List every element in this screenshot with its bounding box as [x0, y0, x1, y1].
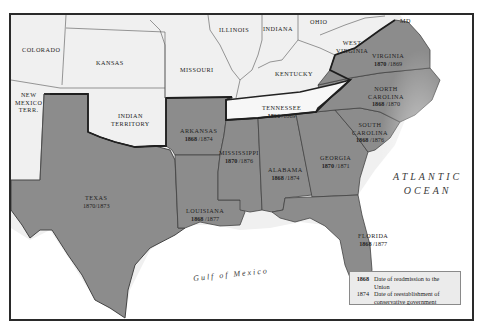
- label-georgia: GEORGIA 1870 /1871: [320, 154, 351, 169]
- label-tennessee: TENNESSEE 1866 /1869: [262, 104, 301, 119]
- legend-text-readmission: Date of readmission to the Union: [374, 275, 455, 290]
- label-south-carolina: SOUTH CAROLINA 1868 /1876: [352, 121, 388, 144]
- label-virginia: VIRGINIA 1870 /1869: [372, 52, 404, 67]
- legend-key-readmission: 1868: [355, 275, 369, 290]
- label-ohio: OHIO: [310, 18, 327, 26]
- label-arkansas: ARKANSAS 1868 /1874: [180, 127, 217, 142]
- label-north-carolina: NORTH CAROLINA 1868 /1870: [368, 85, 404, 108]
- label-new-mexico: NEW MEXICO TERR.: [15, 91, 42, 114]
- label-west-virginia: WEST VIRGINIA: [336, 39, 368, 54]
- state-mississippi[interactable]: [218, 118, 262, 212]
- legend-row-conservative: 1874 Date of reestablishment of conserva…: [355, 290, 455, 305]
- label-indian-territory: INDIAN TERRITORY: [111, 112, 150, 127]
- map-legend: 1868 Date of readmission to the Union 18…: [349, 271, 461, 305]
- label-kansas: KANSAS: [96, 59, 124, 67]
- label-mississippi: MISSISSIPPI 1870 /1876: [219, 149, 259, 164]
- label-louisiana: LOUISIANA 1868 /1877: [186, 207, 224, 222]
- label-maryland: MD: [400, 17, 411, 25]
- legend-row-readmission: 1868 Date of readmission to the Union: [355, 275, 455, 290]
- label-alabama: ALABAMA 1868 /1874: [268, 166, 303, 181]
- label-colorado: COLORADO: [22, 46, 60, 54]
- label-texas: TEXAS 1870/1873: [83, 194, 109, 209]
- label-florida: FLORIDA 1868 /1877: [358, 232, 388, 247]
- label-missouri: MISSOURI: [180, 66, 214, 74]
- label-atlantic-ocean: ATLANTIC OCEAN: [393, 170, 462, 198]
- label-kentucky: KENTUCKY: [275, 70, 313, 78]
- label-illinois: ILLINOIS: [219, 26, 249, 34]
- label-indiana: INDIANA: [263, 25, 293, 33]
- legend-text-conservative: Date of reestablishment of conservative …: [374, 290, 439, 305]
- legend-key-conservative: 1874: [355, 290, 369, 305]
